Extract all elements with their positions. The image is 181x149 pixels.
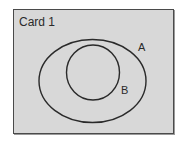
set-a-label: A: [138, 42, 145, 53]
venn-diagram: [0, 0, 181, 149]
set-b-circle: [67, 45, 120, 100]
set-a-ellipse: [39, 40, 146, 123]
set-b-label: B: [121, 85, 128, 96]
